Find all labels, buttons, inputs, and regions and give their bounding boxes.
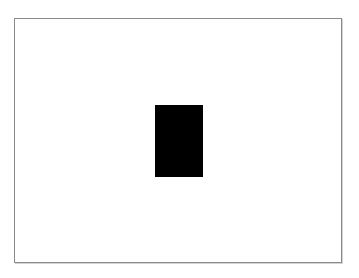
black-rectangle [155,105,203,177]
